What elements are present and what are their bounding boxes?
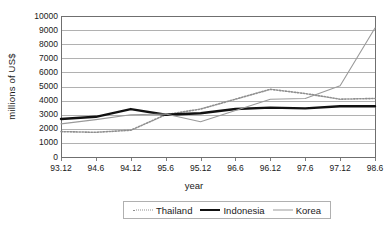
x-axis-tick-label: 98.6 <box>367 164 384 173</box>
line-chart: millions of US$ 100009000800070006000500… <box>0 0 388 231</box>
thin-solid-line-swatch <box>273 206 293 215</box>
thick-solid-line-swatch <box>200 206 220 215</box>
legend-item-label: Thailand <box>156 205 192 216</box>
legend-item-thailand[interactable]: Thailand <box>133 205 192 216</box>
x-axis-tick-label: 96.6 <box>227 164 244 173</box>
legend-item-korea[interactable]: Korea <box>273 205 321 216</box>
x-axis-tick-label: 94.12 <box>120 164 141 173</box>
x-axis-tick-labels: 93.1294.694.1295.695.1296.696.1297.697.1… <box>0 0 388 231</box>
x-axis-tick-label: 94.6 <box>88 164 105 173</box>
x-axis-title: year <box>0 180 388 191</box>
x-axis-tick-label: 95.12 <box>190 164 211 173</box>
legend-item-label: Korea <box>296 205 321 216</box>
x-axis-tick-label: 95.6 <box>157 164 174 173</box>
x-axis-tick-label: 96.12 <box>260 164 281 173</box>
legend-item-indonesia[interactable]: Indonesia <box>200 205 264 216</box>
legend-item-label: Indonesia <box>223 205 264 216</box>
x-axis-tick-label: 97.6 <box>297 164 314 173</box>
x-axis-tick-label: 97.12 <box>329 164 350 173</box>
chart-legend: ThailandIndonesiaKorea <box>123 201 331 219</box>
dotted-line-swatch <box>133 206 153 215</box>
x-axis-tick-label: 93.12 <box>50 164 71 173</box>
